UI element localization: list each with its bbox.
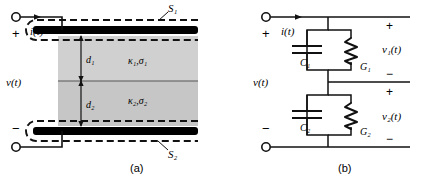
branch-wire-c1 [307, 17, 328, 82]
label-v2: v₂(t) [382, 110, 401, 123]
label-conductance-g2: G₂ [360, 126, 371, 137]
label-minus-a: − [12, 121, 20, 136]
label-thickness-d2: d₂ [86, 99, 95, 110]
label-conductance-g1: G₁ [360, 61, 371, 72]
current-arrow-b [295, 14, 302, 20]
label-capacitor-c1: C₁ [300, 57, 310, 68]
bottom-plate [33, 127, 198, 135]
label-v1-minus: − [386, 67, 393, 81]
label-voltage-b: v(t) [253, 76, 269, 89]
label-plus-b: + [262, 26, 270, 41]
conductance-g2-zigzag [345, 103, 357, 129]
panel-b: i(t) + v(t) − C₁ C₂ G₁ G₂ + v₁(t) − + v₂… [253, 13, 410, 174]
terminal-negative[interactable] [12, 143, 20, 151]
branch-wire-g1-top [328, 30, 351, 38]
label-material-1: κ₁,σ₁ [128, 55, 147, 66]
label-voltage-a: v(t) [6, 76, 22, 89]
label-material-2: κ₂,σ₂ [128, 95, 148, 106]
label-current-b: i(t) [281, 25, 295, 38]
label-surface-s2: S₂ [168, 148, 178, 160]
conductance-g1-zigzag [345, 38, 357, 64]
label-plus-a: + [12, 26, 20, 41]
panel-a: i(t) + v(t) − S₁ S₂ d₁ d₂ κ₁,σ₁ κ₂,σ₂ (a… [6, 2, 198, 174]
caption-panel-b: (b) [338, 162, 351, 174]
label-surface-s1: S₁ [168, 2, 178, 14]
terminal-positive-b[interactable] [262, 13, 270, 21]
label-v2-plus: + [386, 85, 393, 99]
label-minus-b: − [262, 121, 270, 136]
figure-root: i(t) + v(t) − S₁ S₂ d₁ d₂ κ₁,σ₁ κ₂,σ₂ (a… [0, 0, 430, 184]
label-v1: v₁(t) [382, 43, 401, 56]
label-v2-minus: − [386, 132, 393, 146]
top-plate [33, 26, 198, 34]
label-capacitor-c2: C₂ [300, 122, 311, 133]
current-arrow-a [34, 14, 41, 20]
s2-leader-line [158, 141, 168, 150]
terminal-positive[interactable] [12, 13, 20, 21]
terminal-negative-b[interactable] [262, 143, 270, 151]
caption-panel-a: (a) [130, 162, 143, 174]
branch-wire-g2-top [328, 95, 351, 103]
label-v1-plus: + [386, 19, 393, 33]
figure-svg: i(t) + v(t) − S₁ S₂ d₁ d₂ κ₁,σ₁ κ₂,σ₂ (a… [0, 0, 430, 184]
label-thickness-d1: d₁ [86, 54, 94, 65]
label-current-a: i(t) [30, 25, 44, 38]
branch-wire-c2 [307, 82, 328, 147]
